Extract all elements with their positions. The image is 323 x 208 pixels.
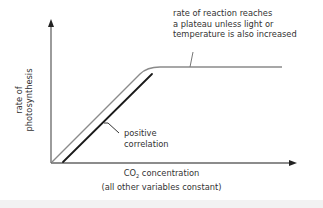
positive-correlation-annotation: positive correlation [124, 128, 169, 149]
x-axis-note: (all other variables constant) [0, 182, 323, 193]
positive-annotation-line1: positive [124, 128, 169, 139]
x-axis-label-rest: concentration [139, 168, 199, 178]
plateau-leader-line [190, 52, 193, 67]
y-axis-label-line2: photosynthesis [24, 69, 34, 132]
x-axis-label: CO2 concentration (all other variables c… [0, 168, 323, 192]
photosynthesis-co2-diagram: rate of photosynthesis rate of reaction … [0, 0, 323, 208]
x-axis-label-co: CO [124, 168, 136, 178]
plateau-annotation: rate of reaction reaches a plateau unles… [173, 8, 297, 40]
x-axis-arrow-icon [289, 160, 297, 166]
correlation-leader-line [104, 123, 119, 133]
y-axis-arrow-icon [48, 19, 54, 27]
positive-annotation-line2: correlation [124, 139, 169, 150]
plateau-annotation-line1: rate of reaction reaches [173, 8, 297, 19]
x-axis-label-line1: CO2 concentration [0, 168, 323, 182]
bottom-band [0, 200, 323, 208]
plateau-annotation-line3: temperature is also increased [173, 29, 297, 40]
plateau-annotation-line2: a plateau unless light or [173, 19, 297, 30]
y-axis-label-line1: rate of [14, 69, 24, 132]
